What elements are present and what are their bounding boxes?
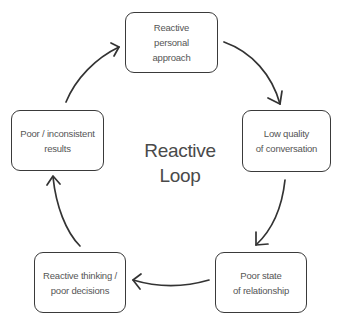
node-poor-inconsistent-results: Poor / inconsistent results — [11, 110, 104, 171]
node-label: Poor / inconsistent results — [20, 126, 94, 156]
node-poor-state-relationship: Poor state of relationship — [215, 252, 307, 313]
arrow-results-to-approach — [66, 43, 119, 102]
node-low-quality-conversation: Low quality of conversation — [242, 110, 331, 172]
arrow-decisions-to-results — [47, 176, 80, 246]
arrow-relationship-to-decisions — [133, 274, 209, 289]
node-label: Reactive personal approach — [152, 20, 190, 65]
node-reactive-personal-approach: Reactive personal approach — [125, 12, 218, 73]
arrow-conversation-to-relationship — [256, 180, 285, 245]
node-label: Poor state of relationship — [233, 268, 289, 298]
diagram-title: Reactive Loop — [130, 138, 230, 188]
node-label: Low quality of conversation — [256, 126, 317, 156]
reactive-loop-diagram: Reactive personal approach Low quality o… — [0, 0, 341, 327]
node-label: Reactive thinking / poor decisions — [43, 268, 117, 298]
arrow-approach-to-conversation — [224, 42, 282, 104]
node-reactive-thinking-decisions: Reactive thinking / poor decisions — [34, 252, 126, 313]
